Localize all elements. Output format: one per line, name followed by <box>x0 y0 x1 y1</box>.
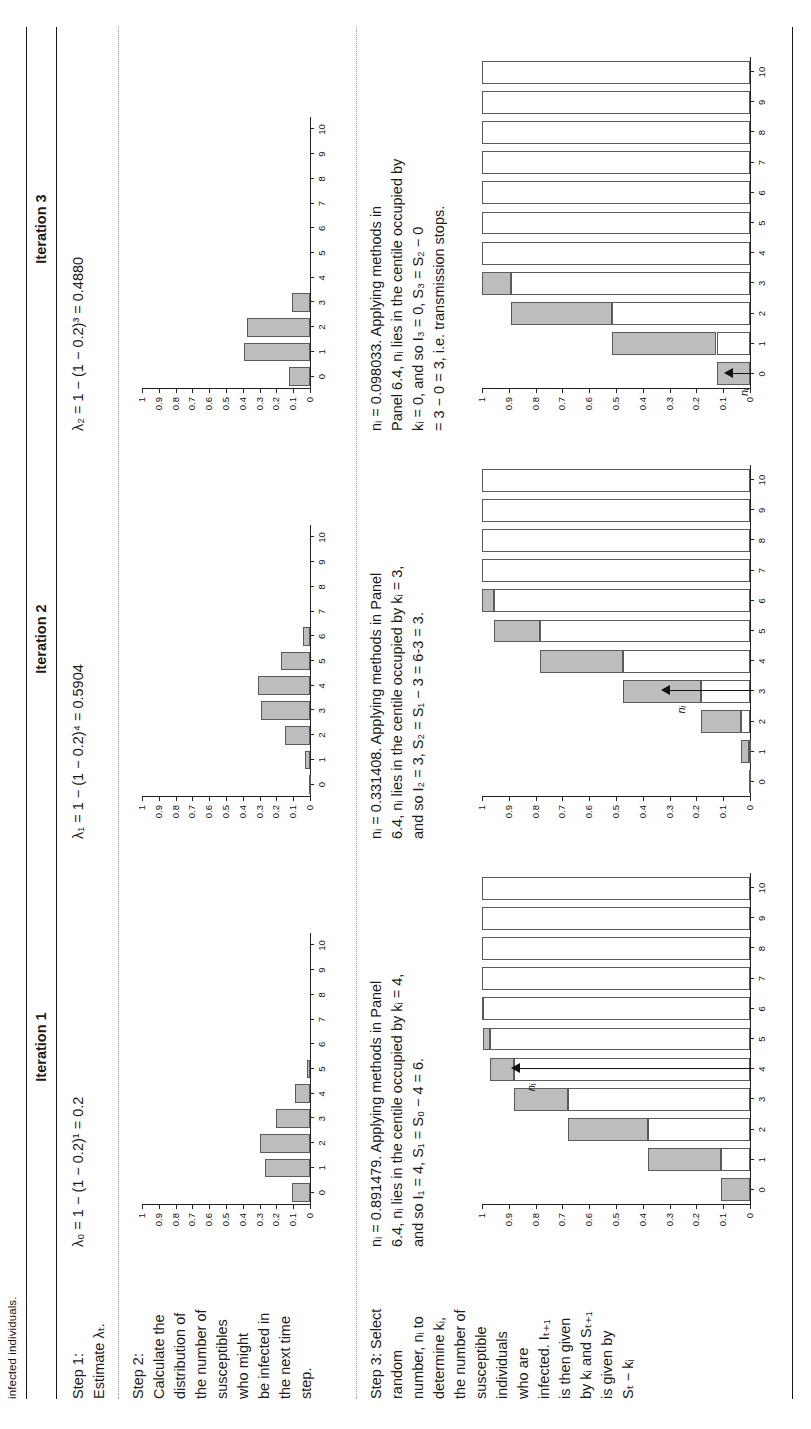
x-tick <box>310 1192 314 1193</box>
step3-text-iter1: nᵢ = 0.891479. Applying methods in Panel… <box>366 847 429 1247</box>
y-tick-label: 1 <box>136 1213 147 1239</box>
y-tick-label: 1 <box>136 805 147 831</box>
x-tick-label: 10 <box>316 933 327 957</box>
x-tick-label: 5 <box>756 1027 767 1051</box>
chart-step2-iteration-1: 00.10.20.30.40.50.60.70.80.9101234567891… <box>136 929 336 1239</box>
x-tick <box>310 1117 314 1118</box>
bar-segment-grey <box>717 362 751 385</box>
y-tick-label: 0.9 <box>503 805 514 831</box>
bar-segment-grey <box>483 1028 490 1051</box>
y-tick-label: 0.6 <box>583 1213 594 1239</box>
y-tick-label: 0.6 <box>203 397 214 423</box>
x-tick-label: 10 <box>316 525 327 549</box>
row-label-line: Step 2: <box>128 1249 149 1399</box>
bar-segment-white <box>749 740 751 763</box>
y-tick <box>670 1205 671 1209</box>
y-tick-label: 0.2 <box>270 805 281 831</box>
step3-text-line: nᵢ = 0.331408. Applying methods in Panel <box>366 439 387 839</box>
x-tick <box>750 887 754 888</box>
bar-segment-white <box>482 529 750 552</box>
bar-segment-white <box>623 650 750 673</box>
x-tick <box>310 994 314 995</box>
y-tick <box>192 389 193 393</box>
x-tick <box>750 1008 754 1009</box>
y-tick <box>310 389 311 393</box>
x-tick-label: 7 <box>316 192 327 216</box>
y-tick-label: 0.7 <box>186 1213 197 1239</box>
x-tick <box>750 600 754 601</box>
y-tick-label: 0.2 <box>690 1213 701 1239</box>
x-tick-label: 3 <box>756 271 767 295</box>
x-tick <box>310 709 314 710</box>
bar-segment-white <box>511 272 750 295</box>
step3-text-iter2: nᵢ = 0.331408. Applying methods in Panel… <box>366 439 429 839</box>
x-tick-label: 3 <box>756 679 767 703</box>
y-tick <box>176 1205 177 1209</box>
y-tick <box>159 1205 160 1209</box>
x-tick <box>310 1068 314 1069</box>
y-tick-label: 0.5 <box>220 805 231 831</box>
y-tick <box>723 389 724 393</box>
y-tick <box>616 797 617 801</box>
y-tick-label: 0.4 <box>237 805 248 831</box>
chart-step3-iteration-3: 00.10.20.30.40.50.60.70.80.9101234567891… <box>476 53 776 423</box>
y-tick <box>670 389 671 393</box>
bar-segment-white <box>482 937 750 960</box>
marker-label: nᵢ <box>525 1084 537 1092</box>
bar-segment-white <box>482 151 750 174</box>
x-tick-label: 1 <box>316 1156 327 1180</box>
x-tick <box>750 1159 754 1160</box>
x-tick-label: 2 <box>316 1131 327 1155</box>
x-tick-label: 5 <box>316 649 327 673</box>
x-tick-label: 4 <box>756 241 767 265</box>
x-tick-label: 4 <box>756 649 767 673</box>
chart-step2-iteration-3: 00.10.20.30.40.50.60.70.80.9101234567891… <box>136 113 336 423</box>
y-tick-label: 0.6 <box>583 397 594 423</box>
step3-text-line: nᵢ = 0.098033. Applying methods in <box>366 27 387 431</box>
y-tick <box>589 1205 590 1209</box>
y-tick <box>260 389 261 393</box>
y-tick-label: 0.3 <box>664 805 675 831</box>
x-tick-label: 7 <box>756 967 767 991</box>
bar-segment-white <box>612 302 750 325</box>
y-tick <box>176 389 177 393</box>
bar-segment-grey <box>721 1178 750 1201</box>
x-tick-label: 2 <box>756 710 767 734</box>
y-tick-label: 0.1 <box>287 805 298 831</box>
bar-segment-white <box>741 710 750 733</box>
y-tick <box>192 797 193 801</box>
x-tick-label: 1 <box>756 1148 767 1172</box>
x-tick-label: 0 <box>756 770 767 794</box>
y-tick-label: 0.1 <box>287 1213 298 1239</box>
x-tick <box>310 227 314 228</box>
y-tick-label: 0.1 <box>287 397 298 423</box>
y-tick <box>482 1205 483 1209</box>
x-tick <box>750 660 754 661</box>
x-tick-label: 6 <box>756 589 767 613</box>
y-tick <box>260 1205 261 1209</box>
x-tick <box>750 343 754 344</box>
x-tick <box>310 1093 314 1094</box>
x-tick-label: 5 <box>756 211 767 235</box>
x-tick-label: 6 <box>756 997 767 1021</box>
x-tick-label: 4 <box>316 1082 327 1106</box>
x-tick-label: 3 <box>316 698 327 722</box>
x-tick <box>750 1129 754 1130</box>
x-tick <box>310 376 314 377</box>
row-label-line: Sₜ − kᵢ <box>618 1249 639 1399</box>
x-tick <box>750 1038 754 1039</box>
y-tick <box>226 389 227 393</box>
marker-arrow-head <box>511 1063 520 1073</box>
y-tick-label: 0.4 <box>637 805 648 831</box>
x-tick-label: 8 <box>316 983 327 1007</box>
x-tick <box>310 351 314 352</box>
x-tick <box>310 1142 314 1143</box>
x-tick <box>750 721 754 722</box>
bar-segment-grey <box>741 740 749 763</box>
x-tick <box>750 162 754 163</box>
marker-label: nᵢ <box>675 706 687 714</box>
y-tick <box>482 797 483 801</box>
y-tick <box>276 797 277 801</box>
bar-segment-white <box>482 967 750 990</box>
x-tick <box>750 373 754 374</box>
